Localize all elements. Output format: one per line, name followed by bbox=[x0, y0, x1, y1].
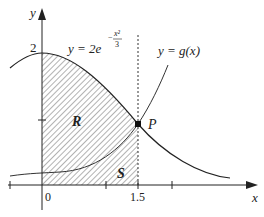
x-axis-arrow-icon bbox=[246, 181, 258, 189]
diagram-canvas: y x 2 0 1.5 y = 2e − x² 3 y = g(x) P R S bbox=[0, 0, 264, 217]
y-axis-arrow-icon bbox=[38, 8, 46, 20]
region-r-label: R bbox=[71, 114, 81, 129]
g-curve-label: y = g(x) bbox=[156, 43, 200, 58]
x-tick-label: 1.5 bbox=[130, 190, 145, 204]
x-axis-label: x bbox=[251, 190, 258, 205]
area-diagram: y x 2 0 1.5 y = 2e − x² 3 y = g(x) P R S bbox=[0, 0, 264, 217]
f-exponent-sign: − bbox=[108, 33, 113, 42]
f-exponent-den: 3 bbox=[115, 40, 119, 49]
point-p-label: P bbox=[147, 117, 157, 132]
f-exponent-num: x² bbox=[113, 29, 121, 38]
y-tick-label: 2 bbox=[30, 40, 37, 55]
region-s-label: S bbox=[117, 166, 125, 181]
point-p-marker bbox=[135, 121, 141, 127]
origin-label: 0 bbox=[45, 190, 51, 204]
f-curve-label: y = 2e bbox=[66, 41, 102, 56]
y-axis-label: y bbox=[28, 5, 36, 20]
